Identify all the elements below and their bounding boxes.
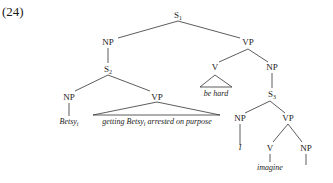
node-v-imagine: V (267, 143, 274, 153)
node-s1: S1 (174, 10, 182, 23)
node-vp-imagine: VP (282, 113, 294, 123)
node-np-top: NP (102, 37, 114, 47)
node-np-obj: NP (300, 143, 312, 153)
node-np-betsy: NP (63, 92, 75, 102)
node-s2: S2 (104, 64, 112, 77)
text-i: I (239, 143, 242, 153)
text-imagine: imagine (257, 163, 283, 173)
text-be-hard: be hard (204, 89, 228, 99)
node-vp-top: VP (242, 37, 254, 47)
text-getting-betsy-arrested: getting Betsyi arrested on purpose (102, 117, 211, 129)
node-v-behard: V (212, 62, 219, 72)
node-vp-getting: VP (151, 92, 163, 102)
node-np-i: NP (234, 113, 246, 123)
node-np-right: NP (266, 62, 278, 72)
text-betsy: Betsyi (60, 117, 79, 129)
tree-branches (0, 0, 333, 183)
node-s3: S3 (268, 89, 276, 102)
